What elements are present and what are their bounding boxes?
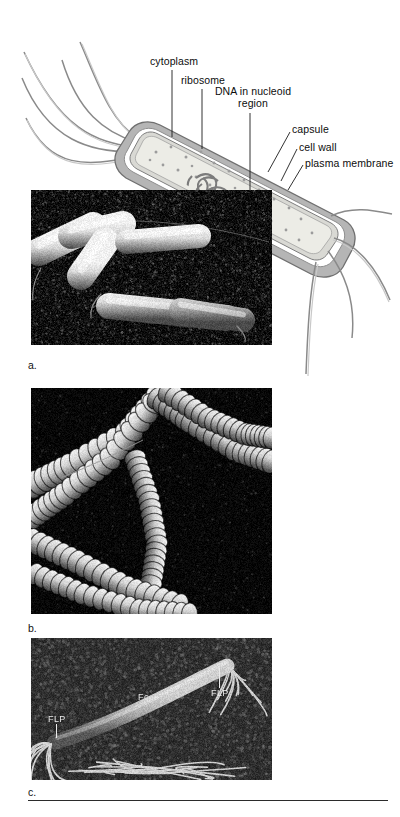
bacteria-figure: cytoplasm ribosome DNA in nucleoid regio… bbox=[0, 0, 400, 817]
label-plasma-membrane: plasma membrane bbox=[305, 157, 393, 169]
panel-c-caption: c. bbox=[28, 786, 36, 798]
panel-a-image bbox=[31, 190, 272, 345]
label-capsule: capsule bbox=[292, 123, 329, 135]
annotation-flp-left-leader bbox=[56, 724, 57, 738]
annotation-flp-right-leader bbox=[219, 668, 220, 688]
annotation-flp-left: FLP bbox=[48, 714, 66, 724]
panel-a-caption: a. bbox=[28, 359, 37, 371]
panel-c-image bbox=[31, 638, 272, 780]
label-cell-wall: cell wall bbox=[299, 141, 337, 153]
panel-b-image bbox=[31, 388, 272, 614]
annotation-flp-right: FLP bbox=[211, 688, 229, 698]
panel-b-caption: b. bbox=[28, 622, 37, 634]
annotation-fc-center: Fc bbox=[138, 692, 149, 702]
label-dna-nucleoid: DNA in nucleoid region bbox=[205, 85, 301, 109]
bottom-rule bbox=[28, 800, 388, 801]
micrograph-panel-a bbox=[31, 190, 272, 345]
micrograph-panel-c: FLP Fc FLP bbox=[31, 638, 272, 780]
label-cytoplasm: cytoplasm bbox=[150, 55, 198, 67]
micrograph-panel-b bbox=[31, 388, 272, 614]
